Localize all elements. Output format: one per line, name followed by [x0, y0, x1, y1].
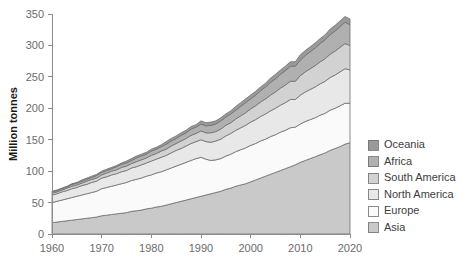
- x-tick-label: 1960: [40, 242, 64, 254]
- y-tick-label: 250: [26, 71, 44, 83]
- x-tick-label: 2010: [288, 242, 312, 254]
- legend-swatch: [368, 140, 378, 150]
- x-tick-label: 1970: [89, 242, 113, 254]
- legend-swatch: [368, 173, 378, 183]
- legend-label: South America: [384, 171, 456, 183]
- y-axis-title: Million tonnes: [7, 87, 19, 161]
- legend-item-africa[interactable]: Africa: [368, 155, 413, 167]
- legend-label: Africa: [384, 155, 413, 167]
- y-tick-label: 350: [26, 8, 44, 20]
- x-tick-label: 1990: [189, 242, 213, 254]
- series-layer: [52, 17, 350, 234]
- legend-item-oceania[interactable]: Oceania: [368, 138, 426, 150]
- legend-item-north-america[interactable]: North America: [368, 188, 455, 200]
- y-tick-label: 0: [38, 228, 44, 240]
- y-tick-label: 100: [26, 165, 44, 177]
- legend-item-south-america[interactable]: South America: [368, 171, 456, 183]
- x-tick-label: 1980: [139, 242, 163, 254]
- legend: OceaniaAfricaSouth AmericaNorth AmericaE…: [368, 138, 456, 233]
- y-tick-label: 50: [32, 197, 44, 209]
- legend-item-europe[interactable]: Europe: [368, 204, 419, 216]
- legend-label: Asia: [384, 221, 406, 233]
- legend-swatch: [368, 223, 378, 233]
- y-tick-label: 150: [26, 134, 44, 146]
- legend-label: Europe: [384, 204, 419, 216]
- legend-item-asia[interactable]: Asia: [368, 221, 406, 233]
- legend-label: Oceania: [384, 138, 426, 150]
- y-axis-title-group: Million tonnes: [7, 87, 19, 161]
- x-tick-label: 2020: [338, 242, 362, 254]
- stacked-area-chart: 0501001502002503003501960197019801990200…: [0, 0, 461, 261]
- chart-canvas: 0501001502002503003501960197019801990200…: [0, 0, 461, 261]
- legend-swatch: [368, 206, 378, 216]
- legend-swatch: [368, 157, 378, 167]
- legend-label: North America: [384, 188, 455, 200]
- x-tick-label: 2000: [238, 242, 262, 254]
- y-tick-label: 200: [26, 102, 44, 114]
- y-tick-label: 300: [26, 39, 44, 51]
- legend-swatch: [368, 190, 378, 200]
